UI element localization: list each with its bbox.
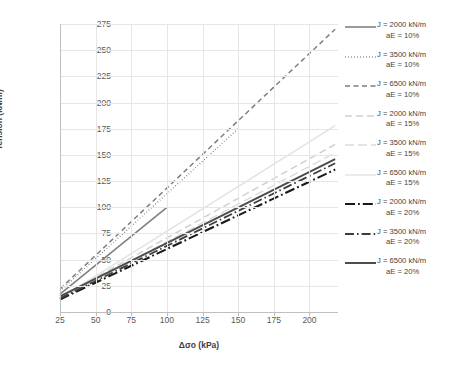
legend-swatch-line-icon — [345, 80, 377, 92]
x-axis-line — [60, 312, 338, 313]
series-line-8 — [60, 159, 335, 296]
chart-legend: J = 2000 kN/maE = 10%J = 3500 kN/maE = 1… — [345, 20, 455, 286]
data-series-layer — [60, 24, 338, 312]
gridline-horizontal — [60, 76, 338, 77]
legend-label-line2: aE = 10% — [377, 90, 426, 101]
series-line-7 — [60, 163, 335, 298]
legend-item[interactable]: J = 3500 kN/maE = 15% — [345, 138, 455, 160]
legend-item[interactable]: J = 2000 kN/maE = 10% — [345, 20, 455, 42]
y-axis-title: Tension (kN/m) — [0, 89, 4, 150]
legend-label-line2: aE = 20% — [377, 267, 426, 278]
legend-swatch-line-icon — [345, 228, 377, 240]
legend-label-line2: aE = 10% — [377, 60, 426, 71]
series-line-5 — [60, 126, 335, 299]
series-line-3 — [60, 144, 335, 297]
legend-item[interactable]: J = 6500 kN/maE = 20% — [345, 256, 455, 278]
legend-swatch-line-icon — [345, 21, 377, 33]
x-tick-label: 100 — [147, 316, 187, 325]
gridline-horizontal — [60, 207, 338, 208]
legend-label-line1: J = 3500 kN/m — [377, 138, 426, 147]
legend-item[interactable]: J = 3500 kN/maE = 20% — [345, 227, 455, 249]
legend-label: J = 6500 kN/maE = 15% — [377, 168, 426, 189]
series-line-2 — [60, 29, 335, 289]
gridline-vertical — [131, 24, 132, 312]
legend-label: J = 3500 kN/maE = 15% — [377, 138, 426, 159]
series-line-1 — [60, 129, 238, 291]
legend-label-line1: J = 2000 kN/m — [377, 197, 426, 206]
legend-label-line2: aE = 20% — [377, 237, 426, 248]
legend-label: J = 3500 kN/maE = 10% — [377, 50, 426, 71]
legend-swatch-line-icon — [345, 198, 377, 210]
x-tick-label: 175 — [254, 316, 294, 325]
x-tick-label: 200 — [289, 316, 329, 325]
gridline-horizontal — [60, 50, 338, 51]
legend-swatch-line-icon — [345, 110, 377, 122]
legend-label-line1: J = 6500 kN/m — [377, 79, 426, 88]
legend-item[interactable]: J = 2000 kN/maE = 15% — [345, 109, 455, 131]
legend-item[interactable]: J = 3500 kN/maE = 10% — [345, 50, 455, 72]
legend-label-line2: aE = 15% — [377, 149, 426, 160]
x-tick-label: 75 — [111, 316, 151, 325]
legend-label: J = 2000 kN/maE = 20% — [377, 197, 426, 218]
legend-swatch-line-icon — [345, 257, 377, 269]
legend-swatch-line-icon — [345, 51, 377, 63]
legend-label-line2: aE = 15% — [377, 119, 426, 130]
gridline-horizontal — [60, 286, 338, 287]
plot-area — [60, 24, 338, 312]
gridline-horizontal — [60, 181, 338, 182]
gridline-horizontal — [60, 260, 338, 261]
legend-label-line2: aE = 10% — [377, 31, 426, 42]
legend-label: J = 3500 kN/maE = 20% — [377, 227, 426, 248]
legend-label-line1: J = 6500 kN/m — [377, 168, 426, 177]
x-tick-label: 150 — [218, 316, 258, 325]
gridline-horizontal — [60, 103, 338, 104]
x-tick-label: 50 — [76, 316, 116, 325]
gridline-horizontal — [60, 233, 338, 234]
legend-label: J = 2000 kN/maE = 15% — [377, 109, 426, 130]
legend-label-line2: aE = 15% — [377, 178, 426, 189]
x-tick-label: 125 — [183, 316, 223, 325]
legend-label-line2: aE = 20% — [377, 208, 426, 219]
legend-label-line1: J = 3500 kN/m — [377, 50, 426, 59]
legend-swatch-line-icon — [345, 169, 377, 181]
legend-label: J = 6500 kN/maE = 10% — [377, 79, 426, 100]
legend-item[interactable]: J = 6500 kN/maE = 15% — [345, 168, 455, 190]
legend-label-line1: J = 3500 kN/m — [377, 227, 426, 236]
series-line-6 — [60, 170, 335, 300]
legend-label-line1: J = 2000 kN/m — [377, 20, 426, 29]
legend-item[interactable]: J = 6500 kN/maE = 10% — [345, 79, 455, 101]
legend-label: J = 6500 kN/maE = 20% — [377, 256, 426, 277]
legend-label-line1: J = 2000 kN/m — [377, 109, 426, 118]
gridline-vertical — [96, 24, 97, 312]
gridline-vertical — [167, 24, 168, 312]
legend-label-line1: J = 6500 kN/m — [377, 256, 426, 265]
legend-swatch-line-icon — [345, 139, 377, 151]
gridline-vertical — [203, 24, 204, 312]
gridline-vertical — [238, 24, 239, 312]
gridline-vertical — [274, 24, 275, 312]
x-tick-label: 25 — [40, 316, 80, 325]
legend-label: J = 2000 kN/maE = 10% — [377, 20, 426, 41]
gridline-horizontal — [60, 129, 338, 130]
x-axis-title: Δσo (kPa) — [60, 340, 338, 350]
gridline-horizontal — [60, 24, 338, 25]
chart-figure: Tension (kN/m) 0255075100125150175200225… — [0, 0, 455, 372]
y-axis-line — [60, 24, 61, 312]
legend-item[interactable]: J = 2000 kN/maE = 20% — [345, 197, 455, 219]
gridline-horizontal — [60, 155, 338, 156]
gridline-vertical — [309, 24, 310, 312]
